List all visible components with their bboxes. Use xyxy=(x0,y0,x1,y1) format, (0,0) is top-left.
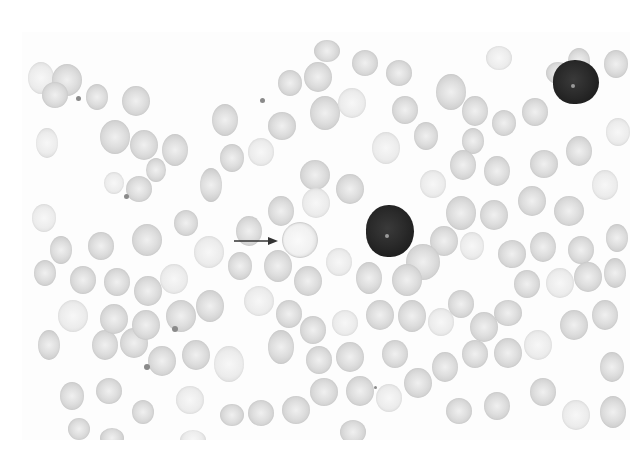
red-blood-cell xyxy=(36,128,58,158)
lymphocyte xyxy=(366,205,414,257)
red-blood-cell xyxy=(100,120,130,154)
red-blood-cell xyxy=(92,330,118,360)
red-blood-cell xyxy=(448,290,474,318)
red-blood-cell xyxy=(180,430,206,440)
red-blood-cell xyxy=(604,258,626,288)
red-blood-cell xyxy=(546,268,574,298)
red-blood-cell xyxy=(282,396,310,424)
red-blood-cell xyxy=(606,118,630,146)
red-blood-cell xyxy=(462,96,488,126)
red-blood-cell xyxy=(50,236,72,264)
red-blood-cell xyxy=(336,174,364,204)
red-blood-cell xyxy=(176,386,204,414)
red-blood-cell xyxy=(310,378,338,406)
red-blood-cell xyxy=(220,404,244,426)
red-blood-cell xyxy=(146,158,166,182)
red-blood-cell xyxy=(130,130,158,160)
platelet xyxy=(374,386,377,389)
red-blood-cell xyxy=(248,138,274,166)
red-blood-cell xyxy=(182,340,210,370)
red-blood-cell xyxy=(34,260,56,286)
red-blood-cell xyxy=(96,378,122,404)
platelet xyxy=(260,98,265,103)
red-blood-cell xyxy=(244,286,274,316)
red-blood-cell xyxy=(446,398,472,424)
red-blood-cell xyxy=(300,316,326,344)
red-blood-cell xyxy=(196,290,224,322)
red-blood-cell xyxy=(592,300,618,330)
red-blood-cell xyxy=(560,310,588,340)
platelet xyxy=(76,96,81,101)
red-blood-cell xyxy=(228,252,252,280)
red-blood-cell xyxy=(100,304,128,334)
red-blood-cell xyxy=(562,400,590,430)
red-blood-cell xyxy=(404,368,432,398)
red-blood-cell xyxy=(554,196,584,226)
red-blood-cell xyxy=(436,74,466,110)
highlighted-spherocyte-cell xyxy=(282,222,318,258)
red-blood-cell xyxy=(600,396,626,428)
red-blood-cell xyxy=(530,378,556,406)
red-blood-cell xyxy=(42,82,68,108)
red-blood-cell xyxy=(382,340,408,368)
red-blood-cell xyxy=(450,150,476,180)
red-blood-cell xyxy=(304,62,332,92)
red-blood-cell xyxy=(530,232,556,262)
red-blood-cell xyxy=(276,300,302,328)
red-blood-cell xyxy=(326,248,352,276)
red-blood-cell xyxy=(336,342,364,372)
red-blood-cell xyxy=(522,98,548,126)
red-blood-cell xyxy=(194,236,224,268)
red-blood-cell xyxy=(300,160,330,190)
red-blood-cell xyxy=(494,300,522,326)
red-blood-cell xyxy=(494,338,522,368)
red-blood-cell xyxy=(398,300,426,332)
red-blood-cell xyxy=(58,300,88,332)
red-blood-cell xyxy=(386,60,412,86)
red-blood-cell xyxy=(68,418,90,440)
red-blood-cell xyxy=(104,172,124,194)
red-blood-cell xyxy=(366,300,394,330)
red-blood-cell xyxy=(462,340,488,368)
red-blood-cell xyxy=(160,264,188,294)
red-blood-cell xyxy=(392,96,418,124)
red-blood-cell xyxy=(432,352,458,382)
red-blood-cell xyxy=(314,40,340,62)
red-blood-cell xyxy=(264,250,292,282)
red-blood-cell xyxy=(310,96,340,130)
red-blood-cell xyxy=(524,330,552,360)
red-blood-cell xyxy=(480,200,508,230)
red-blood-cell xyxy=(162,134,188,166)
red-blood-cell xyxy=(122,86,150,116)
red-blood-cell xyxy=(132,224,162,256)
red-blood-cell xyxy=(338,88,366,118)
red-blood-cell xyxy=(372,132,400,164)
red-blood-cell xyxy=(352,50,378,76)
red-blood-cell xyxy=(248,400,274,426)
red-blood-cell xyxy=(346,376,374,406)
red-blood-cell xyxy=(104,268,130,296)
red-blood-cell xyxy=(484,156,510,186)
red-blood-cell xyxy=(332,310,358,336)
red-blood-cell xyxy=(604,50,628,78)
red-blood-cell xyxy=(568,236,594,264)
red-blood-cell xyxy=(340,420,366,440)
red-blood-cell xyxy=(60,382,84,410)
red-blood-cell xyxy=(70,266,96,294)
red-blood-cell xyxy=(212,104,238,136)
red-blood-cell xyxy=(268,330,294,364)
red-blood-cell xyxy=(600,352,624,382)
red-blood-cell xyxy=(38,330,60,360)
red-blood-cell xyxy=(566,136,592,166)
red-blood-cell xyxy=(132,310,160,340)
red-blood-cell xyxy=(200,168,222,202)
red-blood-cell xyxy=(376,384,402,412)
red-blood-cell xyxy=(492,110,516,136)
platelet xyxy=(144,364,150,370)
red-blood-cell xyxy=(514,270,540,298)
red-blood-cell xyxy=(134,276,162,306)
red-blood-cell xyxy=(606,224,628,252)
red-blood-cell xyxy=(268,112,296,140)
blood-smear-micrograph xyxy=(22,32,630,440)
red-blood-cell xyxy=(100,428,124,440)
